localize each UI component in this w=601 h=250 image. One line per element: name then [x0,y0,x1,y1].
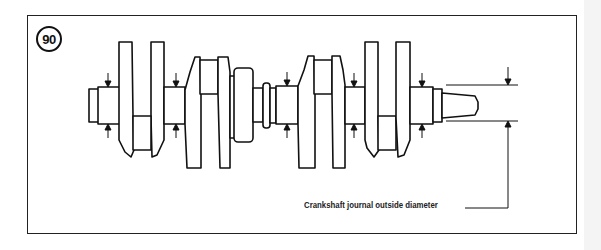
crankpin [314,60,332,94]
counterweight [234,68,253,142]
crankshaft-diagram [0,0,601,250]
crank-web [298,56,315,168]
journal-step [270,88,276,123]
crankpin [378,116,396,150]
main-journal [253,88,263,122]
thrust-collar [263,83,270,128]
crank-web [119,42,134,157]
crank-web [332,56,345,168]
main-journal [164,87,185,124]
crank-web [218,57,230,168]
crank-web [396,42,410,157]
crank-web [185,57,201,168]
figure-caption: Crankshaft journal outside diameter [304,200,438,210]
journal-step [433,89,442,122]
crankshaft-tail [442,93,478,118]
front-main-journal [98,87,120,124]
rear-main-journal [410,87,433,124]
main-journal [345,87,365,124]
crankpin [200,60,218,94]
crank-web [365,42,379,157]
center-main-journal [276,86,298,124]
crankpin [133,116,151,150]
crank-web [151,42,164,157]
